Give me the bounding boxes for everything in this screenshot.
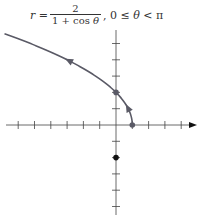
- point-vertex: [130, 122, 136, 128]
- point-y-intercept: [113, 90, 119, 96]
- axes: [6, 30, 197, 215]
- parabola-curve: [5, 34, 133, 125]
- polar-plot: [0, 0, 200, 219]
- point-focus-related-point: [113, 155, 119, 161]
- curve-path: [5, 34, 133, 125]
- x-axis-arrow-icon: [189, 122, 197, 128]
